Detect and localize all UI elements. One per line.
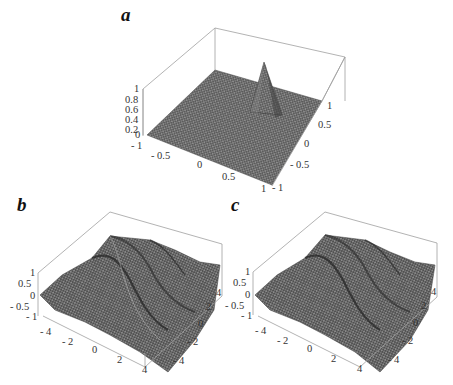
tick: 0.5 (18, 279, 31, 290)
panel-c-plot (253, 212, 437, 372)
tick: - 1 (131, 141, 142, 152)
tick: 4 (142, 365, 147, 376)
panel-label-c: c (231, 194, 239, 216)
figure-canvas (0, 0, 453, 385)
tick: - 2 (62, 337, 73, 348)
tick: 1 (134, 84, 139, 95)
panel-label-a: a (121, 4, 131, 26)
tick: 0 (304, 139, 309, 150)
tick: 0.5 (222, 172, 235, 183)
tick: - 4 (40, 327, 51, 338)
tick: 2 (331, 354, 336, 365)
tick: 2 (206, 302, 211, 313)
tick: 0 (135, 130, 140, 141)
tick: 0 (92, 345, 97, 356)
tick: 1 (245, 267, 250, 278)
panel-b-surface (40, 236, 220, 372)
tick: 1 (30, 268, 35, 279)
tick: - 4 (388, 355, 399, 366)
tick: 4 (357, 364, 362, 375)
tick: 0 (413, 318, 418, 329)
tick: - 1 (26, 312, 37, 323)
panel-label-b: b (17, 194, 27, 216)
tick: 4 (216, 288, 221, 299)
tick: 0.5 (318, 120, 331, 131)
tick: - 4 (255, 326, 266, 337)
panel-b-plot (38, 212, 222, 372)
tick: 0 (245, 290, 250, 301)
tick: 0 (198, 319, 203, 330)
tick: 0 (30, 291, 35, 302)
tick: - 1 (241, 311, 252, 322)
tick: 0 (307, 344, 312, 355)
tick: - 0.5 (151, 151, 170, 162)
tick: - 2 (402, 336, 413, 347)
tick: 4 (431, 287, 436, 298)
panel-a-plot (143, 28, 345, 186)
panel-c-surface (255, 235, 435, 372)
tick: - 2 (187, 337, 198, 348)
tick: 0.5 (233, 278, 246, 289)
tick: - 2 (277, 336, 288, 347)
tick: 1 (261, 184, 266, 195)
tick: 1 (327, 101, 332, 112)
tick: - 0.5 (290, 160, 309, 171)
tick: - 1 (272, 183, 283, 194)
tick: - 4 (173, 356, 184, 367)
tick: 2 (117, 355, 122, 366)
tick: 0 (197, 160, 202, 171)
tick: 2 (421, 301, 426, 312)
